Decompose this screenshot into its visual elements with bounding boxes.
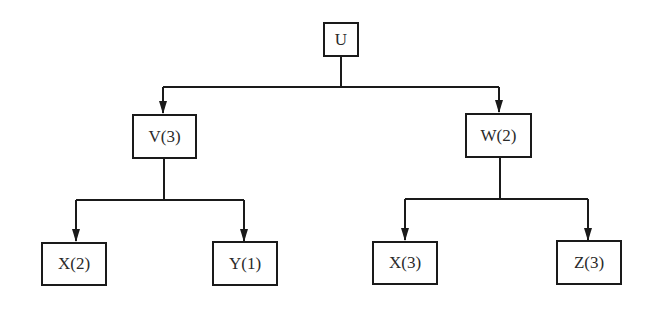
- node-u: U: [323, 22, 359, 57]
- node-label: V(3): [148, 127, 180, 147]
- node-label: Y(1): [229, 254, 261, 274]
- arrowhead-icon: [401, 228, 409, 241]
- node-x2: X(2): [41, 242, 107, 286]
- node-w: W(2): [465, 113, 532, 158]
- tree-diagram: U V(3) W(2) X(2) Y(1) X(3) Z(3): [0, 0, 662, 317]
- node-label: W(2): [481, 126, 517, 146]
- node-label: Z(3): [574, 253, 604, 273]
- node-label: X(2): [58, 254, 90, 274]
- node-x3: X(3): [372, 241, 438, 285]
- arrowhead-icon: [72, 229, 80, 242]
- arrowhead-icon: [159, 101, 167, 114]
- node-y1: Y(1): [212, 241, 278, 286]
- node-label: U: [335, 30, 347, 50]
- arrowhead-icon: [495, 100, 503, 113]
- node-v: V(3): [132, 114, 197, 159]
- node-label: X(3): [389, 253, 421, 273]
- node-z3: Z(3): [556, 240, 622, 285]
